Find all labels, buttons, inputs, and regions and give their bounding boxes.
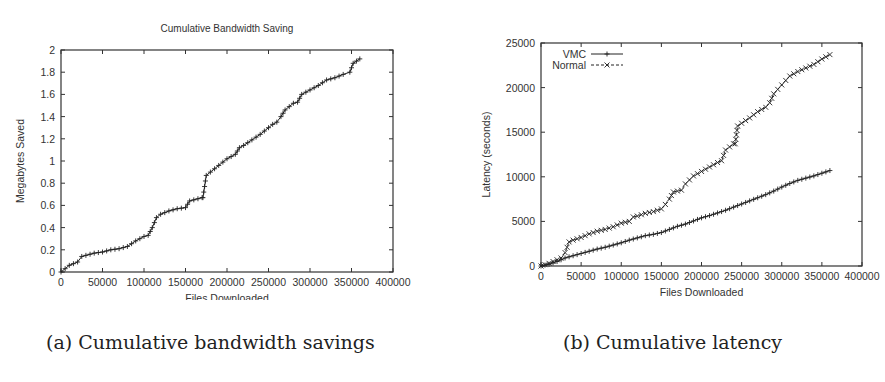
figure-a-bandwidth-saving: 0500001000001500002000002500003000003500… [0,0,440,300]
y-tick-label: 0.2 [40,244,55,256]
y-tick-label: 5000 [512,215,536,227]
series-bandwidth-saved [59,56,363,274]
x-tick-label: 0 [538,270,544,282]
x-tick-label: 400000 [844,270,879,282]
y-tick-label: 0.4 [40,222,55,234]
x-tick-label: 50000 [567,270,596,282]
figure-b-latency: 0500001000001500002000002500003000003500… [440,0,885,300]
caption-a: (a) Cumulative bandwidth savings [46,331,375,353]
x-tick-label: 0 [58,276,64,288]
chart-bandwidth-saving: 0500001000001500002000002500003000003500… [0,0,440,300]
y-tick-label: 1.8 [40,66,55,78]
series-normal [539,52,833,268]
x-tick-label: 100000 [126,276,161,288]
y-tick-label: 25000 [506,37,535,49]
x-tick-label: 50000 [88,276,117,288]
x-tick-label: 300000 [292,276,327,288]
x-tick-label: 200000 [209,276,244,288]
x-tick-label: 200000 [684,270,719,282]
x-tick-label: 250000 [251,276,286,288]
x-tick-label: 300000 [764,270,799,282]
caption-b: (b) Cumulative latency [563,331,782,353]
legend-label-normal: Normal [552,59,586,71]
plot-frame [541,43,862,266]
y-tick-label: 1.6 [40,88,55,100]
y-tick-label: 0 [49,266,55,278]
x-tick-label: 150000 [168,276,203,288]
x-axis-label: Files Downloaded [660,286,744,298]
y-tick-label: 10000 [506,171,535,183]
y-tick-label: 20000 [506,82,535,94]
x-tick-label: 150000 [644,270,679,282]
x-tick-label: 350000 [334,276,369,288]
x-axis-label: Files Downloaded [185,292,269,300]
y-tick-label: 0.8 [40,177,55,189]
y-tick-label: 1.2 [40,133,55,145]
x-tick-label: 400000 [375,276,410,288]
y-axis-label: Latency (seconds) [480,112,492,198]
y-tick-label: 1.4 [40,111,55,123]
y-axis-label: Megabytes Saved [14,119,26,203]
y-tick-label: 0.6 [40,199,55,211]
y-tick-label: 0 [529,260,535,272]
chart-cumulative-latency: 0500001000001500002000002500003000003500… [440,0,885,300]
y-tick-label: 1 [49,155,55,167]
y-tick-label: 15000 [506,126,535,138]
chart-title: Cumulative Bandwidth Saving [161,23,294,34]
x-tick-label: 250000 [724,270,759,282]
y-tick-label: 2 [49,44,55,56]
series-vmc [539,168,833,268]
x-tick-label: 100000 [604,270,639,282]
x-tick-label: 350000 [804,270,839,282]
